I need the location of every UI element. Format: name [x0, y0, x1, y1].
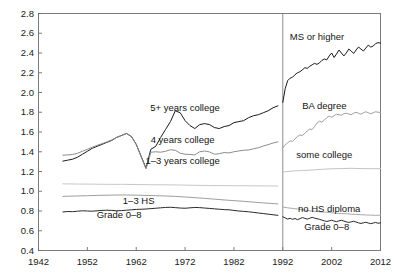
series-line-ba-degree: [283, 112, 381, 148]
y-tick-label: 2.2: [2, 67, 34, 78]
line-chart: 0.40.60.81.01.21.41.61.82.02.22.42.62.81…: [0, 0, 404, 278]
series-line-1-3-hs: [63, 195, 278, 204]
x-tick-label: 1952: [67, 256, 107, 267]
y-tick-label: 1.8: [2, 106, 34, 117]
series-annotation-label: 1–3 years college: [145, 155, 219, 166]
y-tick-label: 0.6: [2, 225, 34, 236]
series-annotation-label: Grade 0–8: [304, 221, 349, 232]
y-tick-label: 1.6: [2, 126, 34, 137]
y-tick-label: 2.0: [2, 87, 34, 98]
series-annotation-label: BA degree: [302, 100, 346, 111]
x-tick-label: 1942: [19, 256, 59, 267]
x-tick-label: 2002: [312, 256, 352, 267]
y-tick-label: 1.4: [2, 146, 34, 157]
series-annotation-label: 4 years college: [151, 134, 215, 145]
series-line-grade-0-8: [63, 207, 278, 215]
series-line-1-3-years-college: [63, 184, 278, 186]
x-tick-label: 2012: [361, 256, 401, 267]
x-tick-label: 1982: [214, 256, 254, 267]
series-annotation-label: no HS diploma: [298, 203, 360, 214]
y-tick-label: 2.6: [2, 27, 34, 38]
series-line-some-college: [283, 168, 381, 172]
plot-frame: [39, 14, 381, 251]
y-tick-label: 2.8: [2, 8, 34, 19]
series-annotation-label: 1–3 HS: [123, 195, 155, 206]
series-annotation-label: 5+ years college: [150, 102, 219, 113]
series-annotation-label: MS or higher: [290, 31, 344, 42]
y-tick-label: 0.4: [2, 245, 34, 256]
y-tick-label: 0.8: [2, 205, 34, 216]
y-tick-label: 1.0: [2, 185, 34, 196]
series-annotation-label: Grade 0–8: [97, 209, 142, 220]
x-tick-label: 1992: [263, 256, 303, 267]
y-tick-label: 2.4: [2, 47, 34, 58]
x-tick-label: 1962: [116, 256, 156, 267]
series-annotation-label: some college: [296, 149, 352, 160]
series-line-ms-or-higher: [283, 43, 381, 103]
y-tick-label: 1.2: [2, 166, 34, 177]
x-tick-label: 1972: [165, 256, 205, 267]
